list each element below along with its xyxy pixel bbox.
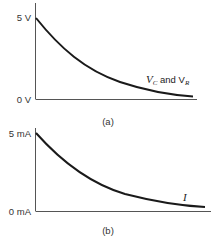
decay-curve-b: [36, 133, 205, 207]
y-tick-top-a: 5 V: [17, 12, 32, 23]
y-tick-bottom-b: 0 mA: [9, 206, 32, 217]
caption-b: (b): [102, 225, 114, 236]
chart-b: 5 mA 0 mA I (b): [9, 128, 211, 236]
y-tick-top-b: 5 mA: [9, 128, 32, 139]
y-tick-bottom-a: 0 V: [17, 94, 32, 105]
curve-label-a: VC and VR: [146, 73, 190, 87]
chart-a: 5 V 0 V VC and VR (a): [17, 3, 197, 127]
figure: 5 V 0 V VC and VR (a) 5 mA 0 mA I (b): [0, 0, 216, 243]
curve-label-b: I: [182, 191, 188, 203]
caption-a: (a): [102, 116, 114, 127]
